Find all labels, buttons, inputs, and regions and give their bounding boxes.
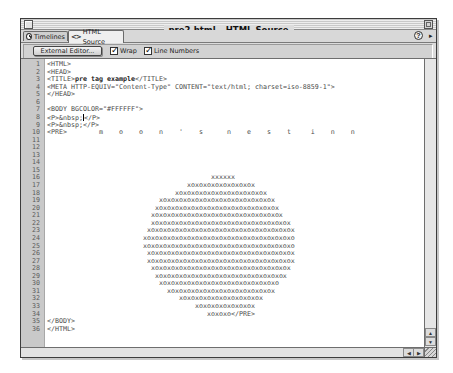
tab-label: HTML Source <box>83 27 121 47</box>
line-text: <BODY BGCOLOR="#FFFFFF"> <box>45 106 143 114</box>
code-line[interactable]: 14 <box>21 159 424 167</box>
scroll-up-arrow-icon[interactable]: ▲ <box>425 328 436 337</box>
line-numbers-label: Line Numbers <box>154 47 199 55</box>
code-line[interactable]: 11 <box>21 137 424 145</box>
resize-grip-icon[interactable] <box>424 347 436 357</box>
line-text: xoxoxo</PRE> <box>45 311 255 319</box>
code-segment: <BODY BGCOLOR="#FFFFFF"> <box>47 105 143 113</box>
code-line[interactable]: 35</BODY> <box>21 318 424 326</box>
code-line[interactable]: 7<BODY BGCOLOR="#FFFFFF"> <box>21 106 424 114</box>
help-icon[interactable]: ? <box>414 31 423 40</box>
code-segment: <META HTTP-EQUIV="Content-Type" CONTENT=… <box>47 83 335 91</box>
line-number: 36 <box>21 326 45 334</box>
scroll-right-arrow-icon[interactable]: ▶ <box>413 348 424 357</box>
line-numbers-checkbox[interactable]: Line Numbers <box>144 46 199 56</box>
line-text: </HEAD> <box>45 91 75 99</box>
code-lines[interactable]: 1<HTML>2<HEAD>3<TITLE>pre tag example</T… <box>21 61 424 333</box>
code-line[interactable]: 34xoxoxo</PRE> <box>21 311 424 319</box>
line-text <box>45 167 47 175</box>
line-text: </HTML> <box>45 326 75 334</box>
collapse-box-icon[interactable] <box>424 20 433 29</box>
options-menu-arrow-icon[interactable]: ▸ <box>429 31 433 41</box>
code-line[interactable]: 1<HTML> <box>21 61 424 69</box>
code-brackets-icon: <> <box>71 32 81 42</box>
line-number: 2 <box>21 69 45 77</box>
code-segment: </HEAD> <box>47 90 75 98</box>
code-line[interactable]: 5</HEAD> <box>21 91 424 99</box>
horizontal-scrollbar[interactable]: ◀ ▶ <box>21 347 424 357</box>
wrap-label: Wrap <box>120 47 137 55</box>
line-text <box>45 159 47 167</box>
code-line[interactable]: 4<META HTTP-EQUIV="Content-Type" CONTENT… <box>21 84 424 92</box>
clock-icon <box>26 33 32 40</box>
line-number: 5 <box>21 91 45 99</box>
external-editor-button[interactable]: External Editor... <box>33 46 102 56</box>
code-editor[interactable]: 1<HTML>2<HEAD>3<TITLE>pre tag example</T… <box>21 58 424 347</box>
line-text: <META HTTP-EQUIV="Content-Type" CONTENT=… <box>45 84 335 92</box>
checkbox-checked-icon[interactable] <box>144 47 152 55</box>
code-line[interactable]: 12 <box>21 144 424 152</box>
line-number: 4 <box>21 84 45 92</box>
line-number: 6 <box>21 99 45 107</box>
code-segment: </HTML> <box>47 325 75 333</box>
code-line[interactable]: 36</HTML> <box>21 326 424 334</box>
vertical-scrollbar[interactable]: ▲ ▼ <box>424 58 436 347</box>
wrap-checkbox[interactable]: Wrap <box>110 46 137 56</box>
tab-html-source[interactable]: <> HTML Source <box>68 30 124 43</box>
line-number: 7 <box>21 106 45 114</box>
tab-bar: Timelines <> HTML Source ? ▸ <box>21 30 436 43</box>
line-text <box>45 152 47 160</box>
checkbox-checked-icon[interactable] <box>110 47 118 55</box>
code-segment: xoxoxo</PRE> <box>207 310 255 318</box>
scroll-down-arrow-icon[interactable]: ▼ <box>425 337 436 346</box>
line-number: 1 <box>21 61 45 69</box>
code-line[interactable]: 10<PRE> m o o n ' s n e s t i n n <box>21 129 424 137</box>
code-segment: <PRE> m o o n ' s n e s t i n n <box>47 128 355 136</box>
code-line[interactable]: 13 <box>21 152 424 160</box>
tab-label: Timelines <box>34 32 65 42</box>
html-source-window: pre2.html – HTML Source Timelines <> HTM… <box>20 18 437 358</box>
line-text <box>45 137 47 145</box>
line-number: 3 <box>21 76 45 84</box>
line-number: 8 <box>21 114 45 122</box>
line-text <box>45 144 47 152</box>
line-text: <PRE> m o o n ' s n e s t i n n <box>45 129 355 137</box>
tab-timelines[interactable]: Timelines <box>23 31 68 41</box>
